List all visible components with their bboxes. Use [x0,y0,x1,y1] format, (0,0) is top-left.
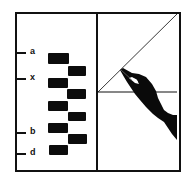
block-8 [68,134,87,144]
tick-d [17,153,26,155]
label-a: a [30,47,35,56]
block-6 [68,112,86,121]
tick-x [17,78,26,80]
hand-silhouette-icon [120,68,177,140]
block-5 [48,101,68,111]
tick-a [17,52,26,54]
block-9 [49,145,68,155]
block-2 [68,66,86,76]
label-b: b [30,127,36,136]
block-7 [48,123,68,133]
right-panel [98,14,177,168]
figure: a x b d [0,0,189,180]
block-3 [48,78,68,88]
tick-b [17,132,26,134]
block-4 [67,89,86,99]
block-1 [48,53,69,64]
label-d: d [30,148,36,157]
label-x: x [30,73,35,82]
